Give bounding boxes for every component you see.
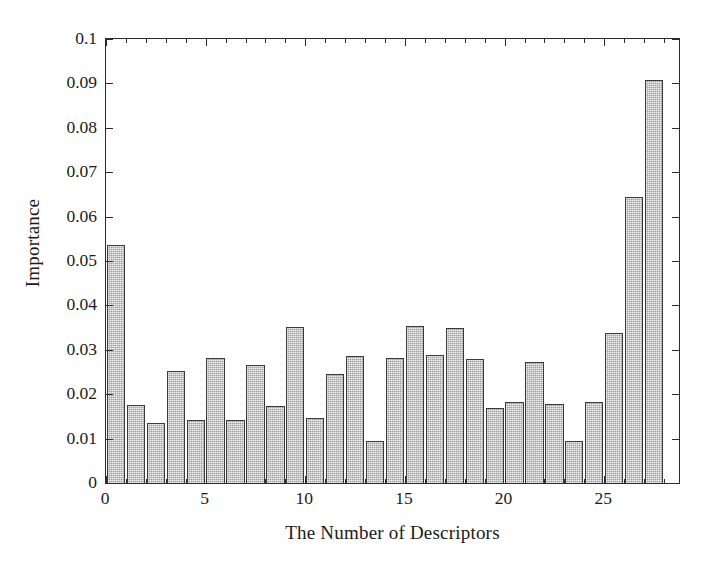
y-axis-tick-label: 0.08 <box>66 116 97 137</box>
bar <box>426 355 444 483</box>
x-axis-tick-mirror <box>445 39 446 43</box>
bar <box>206 358 224 483</box>
bar-chart-figure: Importance The Number of Descriptors 00.… <box>0 0 713 574</box>
x-axis-tick-mirror <box>604 39 605 46</box>
x-axis-tick-mirror <box>146 39 147 43</box>
bar-series <box>106 39 679 483</box>
bar <box>246 365 264 483</box>
x-axis-tick-mirror <box>226 39 227 43</box>
x-axis-tick <box>106 476 107 483</box>
bar <box>326 374 344 483</box>
y-axis-tick-label: 0.09 <box>66 72 97 93</box>
x-axis-tick-label: 0 <box>101 488 110 509</box>
x-axis-tick-mirror <box>644 39 645 43</box>
y-axis-tick-label: 0 <box>88 472 97 493</box>
x-axis-minor-tick <box>325 479 326 483</box>
bar <box>226 420 244 483</box>
y-axis-tick <box>106 39 113 40</box>
x-axis-minor-tick <box>584 479 585 483</box>
x-axis-tick-mirror <box>624 39 625 43</box>
x-axis-tick-mirror <box>485 39 486 43</box>
y-axis-tick-label: 0.04 <box>66 294 97 315</box>
x-axis-minor-tick <box>265 479 266 483</box>
bar <box>386 358 404 483</box>
y-axis-title: Importance <box>22 163 44 323</box>
bar <box>406 326 424 483</box>
bar <box>147 423 165 483</box>
y-axis-tick-label: 0.01 <box>66 427 97 448</box>
x-axis-tick-mirror <box>564 39 565 43</box>
bar <box>187 420 205 483</box>
y-axis-tick <box>106 83 113 84</box>
x-axis-tick-mirror <box>206 39 207 46</box>
x-axis-minor-tick <box>385 479 386 483</box>
x-axis-tick-mirror <box>584 39 585 43</box>
y-axis-tick <box>106 483 113 484</box>
bar <box>107 245 125 483</box>
y-axis-tick <box>106 172 113 173</box>
y-axis-tick-mirror <box>672 83 679 84</box>
x-axis-tick-mirror <box>186 39 187 43</box>
bar <box>486 408 504 483</box>
y-axis-tick-label: 0.06 <box>66 205 97 226</box>
x-axis-minor-tick <box>246 479 247 483</box>
x-axis-tick-mirror <box>465 39 466 43</box>
y-axis-tick-mirror <box>672 172 679 173</box>
x-axis-tick-label: 15 <box>395 488 413 509</box>
y-axis-tick-mirror <box>672 483 679 484</box>
x-axis-tick <box>206 476 207 483</box>
y-axis-tick-mirror <box>672 217 679 218</box>
bar <box>446 328 464 483</box>
x-axis-tick <box>505 476 506 483</box>
y-axis-tick <box>106 261 113 262</box>
x-axis-minor-tick <box>624 479 625 483</box>
x-axis-tick-label: 5 <box>200 488 209 509</box>
x-axis-minor-tick <box>365 479 366 483</box>
x-axis-minor-tick <box>166 479 167 483</box>
y-axis-tick-mirror <box>672 394 679 395</box>
x-axis-minor-tick <box>664 479 665 483</box>
x-axis-tick-mirror <box>505 39 506 46</box>
x-axis-tick-mirror <box>166 39 167 43</box>
x-axis-minor-tick <box>285 479 286 483</box>
y-axis-tick-label: 0.03 <box>66 338 97 359</box>
y-axis-tick-mirror <box>672 261 679 262</box>
x-axis-tick <box>405 476 406 483</box>
x-axis-tick-mirror <box>305 39 306 46</box>
x-axis-tick-mirror <box>525 39 526 43</box>
y-axis-tick <box>106 305 113 306</box>
x-axis-minor-tick <box>345 479 346 483</box>
x-axis-tick-mirror <box>325 39 326 43</box>
x-axis-tick-label: 20 <box>495 488 513 509</box>
bar <box>306 418 324 483</box>
plot-area <box>105 38 680 484</box>
x-axis-minor-tick <box>445 479 446 483</box>
x-axis-title: The Number of Descriptors <box>105 522 680 544</box>
bar <box>266 406 284 483</box>
bar <box>605 333 623 483</box>
x-axis-tick <box>604 476 605 483</box>
y-axis-tick-mirror <box>672 305 679 306</box>
y-axis-tick-label: 0.07 <box>66 161 97 182</box>
x-axis-minor-tick <box>544 479 545 483</box>
x-axis-minor-tick <box>525 479 526 483</box>
y-axis-tick-mirror <box>672 128 679 129</box>
x-axis-minor-tick <box>564 479 565 483</box>
x-axis-minor-tick <box>226 479 227 483</box>
x-axis-tick-mirror <box>544 39 545 43</box>
x-axis-tick-label: 10 <box>296 488 314 509</box>
x-axis-tick-label: 25 <box>595 488 613 509</box>
bar <box>167 371 185 483</box>
y-axis-tick-mirror <box>672 439 679 440</box>
x-axis-tick-mirror <box>365 39 366 43</box>
y-axis-tick-label: 0.05 <box>66 250 97 271</box>
x-axis-tick-mirror <box>664 39 665 43</box>
bar <box>286 327 304 483</box>
y-axis-tick-mirror <box>672 39 679 40</box>
x-axis-minor-tick <box>425 479 426 483</box>
x-axis-minor-tick <box>126 479 127 483</box>
bar <box>466 359 484 483</box>
bar <box>545 404 563 483</box>
y-axis-tick <box>106 128 113 129</box>
x-axis-minor-tick <box>465 479 466 483</box>
